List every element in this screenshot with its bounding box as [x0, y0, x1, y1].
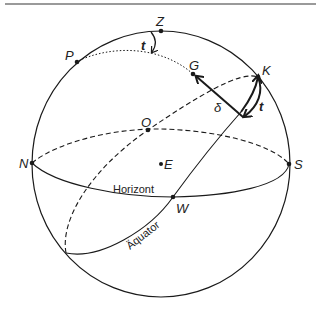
horizon-back [32, 129, 289, 164]
top-divider [5, 3, 316, 5]
label-Z: Z [155, 14, 165, 29]
point-E [159, 162, 163, 166]
label-O: O [141, 115, 151, 130]
label-S: S [294, 157, 303, 172]
label-W: W [176, 201, 190, 216]
celestial-sphere-figure: Z P G K O E N S W t t δ Horizont Äquator [0, 0, 321, 315]
hour-angle-arc-top [151, 32, 155, 52]
sphere-svg: Z P G K O E N S W t t δ Horizont Äquator [0, 0, 321, 315]
point-W [171, 195, 176, 200]
label-E: E [164, 157, 173, 172]
label-horizon: Horizont [113, 183, 154, 195]
label-K: K [262, 63, 272, 78]
equator-front-upper [241, 77, 258, 112]
point-K [256, 75, 261, 80]
label-t-right: t [259, 99, 264, 114]
point-N [30, 161, 35, 166]
point-P [75, 60, 80, 65]
label-N: N [19, 156, 29, 171]
hour-circle-dotted [76, 50, 193, 74]
horizon-front [32, 163, 289, 197]
label-G: G [189, 58, 199, 73]
point-S [287, 162, 292, 167]
label-t-top: t [141, 38, 146, 53]
label-P: P [65, 48, 74, 63]
point-Z [159, 29, 164, 34]
hour-circle-dotted-ext [193, 67, 258, 77]
label-delta: δ [214, 100, 222, 115]
label-equator: Äquator [124, 218, 162, 251]
